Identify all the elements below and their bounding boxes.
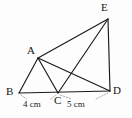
segment-ed — [108, 19, 110, 91]
segment-ab — [19, 58, 38, 93]
vertex-label-d: D — [113, 85, 121, 96]
dimension-label-bc: 4 cm — [23, 100, 41, 109]
segment-bd — [19, 91, 110, 93]
figure-canvas — [0, 0, 132, 118]
segment-ce — [58, 19, 108, 93]
vertex-label-c: C — [54, 95, 61, 106]
vertex-label-e: E — [101, 2, 108, 13]
vertex-label-a: A — [27, 45, 35, 56]
vertex-label-b: B — [6, 86, 13, 97]
segment-ac — [38, 58, 58, 93]
segment-ad — [38, 58, 110, 91]
segment-ae — [38, 19, 108, 58]
figure-edges — [19, 19, 110, 93]
dimension-label-cd: 5 cm — [67, 100, 85, 109]
geometry-figure: A B C D E 4 cm 5 cm — [0, 0, 132, 118]
